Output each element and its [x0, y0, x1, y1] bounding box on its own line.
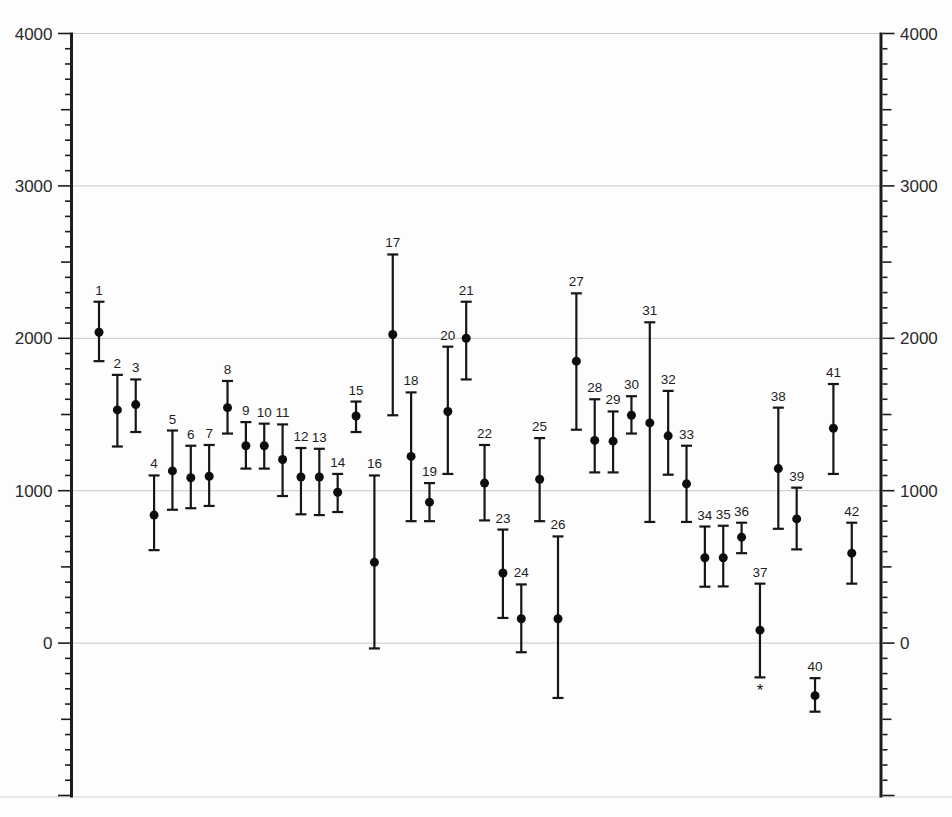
data-point-8: [223, 403, 232, 412]
point-label-37: 37: [752, 565, 767, 580]
data-point-13: [315, 472, 324, 481]
data-point-37: [755, 626, 764, 635]
data-point-23: [498, 568, 507, 577]
point-label-24: 24: [514, 565, 530, 580]
data-point-19: [425, 498, 434, 507]
point-label-22: 22: [477, 426, 492, 441]
point-label-15: 15: [349, 383, 364, 398]
data-point-36: [737, 533, 746, 542]
y-axis-label-left-4000: 4000: [15, 25, 53, 44]
y-axis-label-left-3000: 3000: [15, 177, 53, 196]
point-label-28: 28: [587, 380, 602, 395]
data-point-15: [352, 412, 361, 421]
point-label-23: 23: [495, 511, 510, 526]
point-label-26: 26: [550, 517, 565, 532]
data-point-12: [296, 472, 305, 481]
point-label-42: 42: [844, 504, 859, 519]
point-label-3: 3: [132, 360, 140, 375]
point-label-17: 17: [385, 235, 400, 250]
data-point-25: [535, 475, 544, 484]
data-point-38: [774, 464, 783, 473]
data-point-27: [572, 357, 581, 366]
data-point-17: [388, 330, 397, 339]
y-axis-label-right-1000: 1000: [900, 482, 938, 501]
point-label-4: 4: [150, 456, 158, 471]
data-point-7: [205, 472, 214, 481]
point-label-21: 21: [459, 283, 474, 298]
asterisk-annotation: *: [757, 681, 764, 700]
data-point-28: [590, 436, 599, 445]
point-label-7: 7: [205, 426, 213, 441]
point-label-39: 39: [789, 469, 804, 484]
point-label-14: 14: [330, 455, 346, 470]
point-label-33: 33: [679, 427, 694, 442]
point-label-5: 5: [169, 412, 177, 427]
data-point-14: [333, 488, 342, 497]
point-label-2: 2: [114, 356, 122, 371]
data-point-39: [792, 514, 801, 523]
data-point-24: [517, 614, 526, 623]
data-point-21: [462, 334, 471, 343]
y-axis-label-right-4000: 4000: [900, 25, 938, 44]
point-label-8: 8: [224, 362, 232, 377]
data-point-32: [664, 431, 673, 440]
data-point-40: [811, 691, 820, 700]
point-label-27: 27: [569, 274, 584, 289]
point-label-13: 13: [312, 430, 327, 445]
y-axis-label-left-0: 0: [43, 634, 52, 653]
y-axis-label-right-2000: 2000: [900, 329, 938, 348]
data-point-1: [95, 328, 104, 337]
y-axis-label-right-0: 0: [900, 634, 909, 653]
point-label-31: 31: [642, 303, 657, 318]
data-point-26: [554, 614, 563, 623]
point-label-12: 12: [293, 429, 308, 444]
point-label-38: 38: [771, 389, 786, 404]
point-label-9: 9: [242, 403, 250, 418]
data-point-3: [131, 400, 140, 409]
data-point-31: [645, 418, 654, 427]
data-point-41: [829, 424, 838, 433]
y-axis-label-left-1000: 1000: [15, 482, 53, 501]
point-label-32: 32: [661, 372, 676, 387]
data-point-16: [370, 558, 379, 567]
point-label-40: 40: [808, 659, 823, 674]
data-point-5: [168, 466, 177, 475]
point-label-1: 1: [95, 283, 103, 298]
point-label-29: 29: [606, 392, 621, 407]
point-label-25: 25: [532, 419, 547, 434]
point-label-6: 6: [187, 427, 195, 442]
y-axis-label-right-3000: 3000: [900, 177, 938, 196]
point-label-18: 18: [404, 373, 419, 388]
data-point-33: [682, 479, 691, 488]
point-label-16: 16: [367, 456, 382, 471]
point-label-20: 20: [440, 328, 455, 343]
chart-canvas: 0010001000200020003000300040004000123456…: [0, 0, 952, 817]
point-label-30: 30: [624, 377, 639, 392]
point-label-10: 10: [257, 405, 272, 420]
data-point-11: [278, 455, 287, 464]
point-label-34: 34: [697, 508, 713, 523]
data-point-6: [186, 473, 195, 482]
point-label-36: 36: [734, 504, 749, 519]
errorbar-chart: 0010001000200020003000300040004000123456…: [0, 0, 952, 817]
point-label-41: 41: [826, 365, 841, 380]
data-point-18: [407, 452, 416, 461]
point-label-19: 19: [422, 464, 437, 479]
y-axis-label-left-2000: 2000: [15, 329, 53, 348]
data-point-10: [260, 441, 269, 450]
data-point-20: [443, 407, 452, 416]
data-point-35: [719, 553, 728, 562]
data-point-2: [113, 405, 122, 414]
data-point-30: [627, 411, 636, 420]
data-point-34: [700, 553, 709, 562]
data-point-29: [609, 437, 618, 446]
point-label-11: 11: [276, 405, 290, 420]
point-label-35: 35: [716, 507, 731, 522]
data-point-22: [480, 479, 489, 488]
data-point-9: [241, 441, 250, 450]
data-point-4: [150, 511, 159, 520]
data-point-42: [847, 549, 856, 558]
